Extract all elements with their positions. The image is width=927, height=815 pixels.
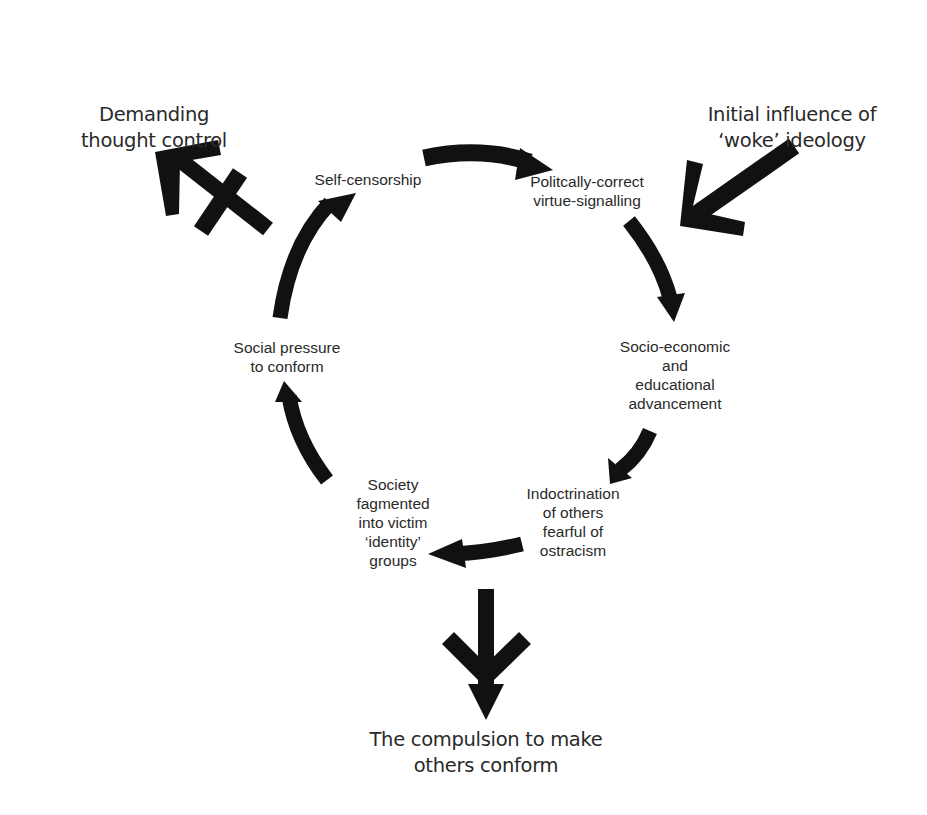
output-arrow-down	[448, 589, 525, 720]
text-line: to conform	[212, 357, 362, 376]
text-line: others conform	[330, 753, 642, 779]
text-line: fagmented	[338, 494, 448, 513]
text-line: fearful of	[508, 522, 638, 541]
label-demanding-thought-control: Demanding thought control	[34, 102, 274, 154]
node-social-pressure: Social pressure to conform	[212, 338, 362, 376]
arrow-virtue-to-advancement	[629, 221, 685, 322]
text-line: Politcally-correct	[512, 172, 662, 191]
label-compulsion-to-conform: The compulsion to make others conform	[330, 727, 642, 779]
text-line: into victim	[338, 513, 448, 532]
text-line: virtue-signalling	[512, 191, 662, 210]
text-line: The compulsion to make	[330, 727, 642, 753]
text-line: Socio-economic	[600, 337, 750, 356]
node-self-censorship: Self-censorship	[303, 170, 433, 189]
arrow-socialpressure-to-selfcensorship	[280, 193, 356, 318]
text-line: advancement	[600, 394, 750, 413]
input-arrow	[680, 146, 794, 236]
text-line: educational	[600, 375, 750, 394]
arrow-advancement-to-indoctrination	[608, 431, 650, 484]
node-fragmented-society: Society fagmented into victim ‘identity’…	[338, 475, 448, 570]
node-indoctrination: Indoctrination of others fearful of ostr…	[508, 484, 638, 560]
text-line: Self-censorship	[303, 170, 433, 189]
text-line: ‘woke’ ideology	[672, 128, 912, 154]
text-line: Indoctrination	[508, 484, 638, 503]
text-line: groups	[338, 551, 448, 570]
text-line: ostracism	[508, 541, 638, 560]
text-line: and	[600, 356, 750, 375]
text-line: ‘identity’	[338, 532, 448, 551]
label-initial-influence: Initial influence of ‘woke’ ideology	[672, 102, 912, 154]
arrow-society-to-socialpressure	[275, 381, 327, 480]
text-line: thought control	[34, 128, 274, 154]
node-virtue-signalling: Politcally-correct virtue-signalling	[512, 172, 662, 210]
text-line: of others	[508, 503, 638, 522]
node-advancement: Socio-economic and educational advanceme…	[600, 337, 750, 413]
text-line: Demanding	[34, 102, 274, 128]
text-line: Initial influence of	[672, 102, 912, 128]
text-line: Society	[338, 475, 448, 494]
text-line: Social pressure	[212, 338, 362, 357]
